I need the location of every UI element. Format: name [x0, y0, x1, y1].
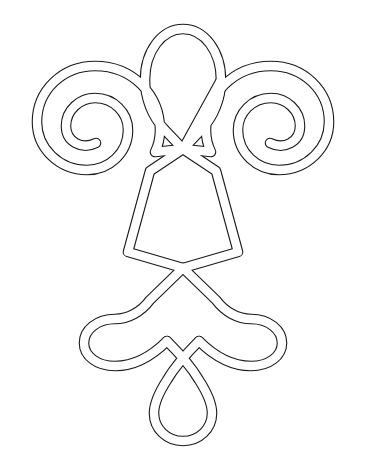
- canvas-background: [0, 0, 366, 468]
- knotwork-illustration: Celtic Triple-Spiral Knotwork Ornament: [0, 0, 366, 468]
- artboard: Celtic Triple-Spiral Knotwork Ornament c…: [0, 0, 366, 468]
